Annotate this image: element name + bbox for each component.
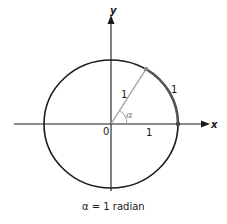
origin-label: 0 (103, 126, 109, 137)
arc-length-label: 1 (171, 84, 177, 95)
caption: α = 1 radian (82, 201, 145, 212)
x-axis-label: x (210, 119, 218, 130)
x-segment-length-label: 1 (146, 127, 152, 138)
arc-endpoint-x (176, 122, 180, 126)
arc-length-highlight (146, 69, 178, 124)
arc-endpoint-top (144, 67, 148, 71)
diagram-canvas: y x 0 1 1 1 α α = 1 radian (0, 0, 227, 224)
angle-alpha-label: α (126, 109, 133, 120)
x-axis-arrow-icon (201, 121, 210, 128)
y-axis-label: y (110, 5, 117, 16)
y-axis-arrow-icon (108, 15, 115, 24)
unit-circle-figure: y x 0 1 1 1 α α = 1 radian (0, 0, 227, 224)
radius-length-label: 1 (121, 89, 127, 100)
